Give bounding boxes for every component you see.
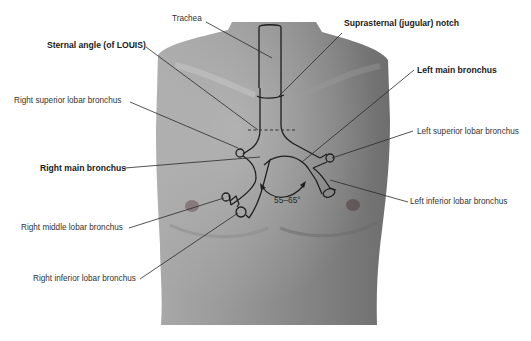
label-right-main-bronchus: Right main bronchus bbox=[40, 163, 126, 173]
label-left-main-bronchus: Left main bronchus bbox=[417, 65, 497, 75]
label-sternal-angle: Sternal angle (of LOUIS) bbox=[47, 40, 146, 50]
label-carina-angle: 55–65° bbox=[274, 195, 301, 205]
label-left-superior-lobar-bronchus: Left superior lobar bronchus bbox=[417, 127, 519, 137]
label-trachea: Trachea bbox=[172, 14, 202, 24]
label-right-middle-lobar-bronchus: Right middle lobar bronchus bbox=[21, 223, 123, 233]
label-suprasternal-notch: Suprasternal (jugular) notch bbox=[344, 18, 459, 28]
label-right-superior-lobar-bronchus: Right superior lobar bronchus bbox=[14, 96, 121, 106]
label-left-inferior-lobar-bronchus: Left inferior lobar bronchus bbox=[410, 197, 507, 207]
label-right-inferior-lobar-bronchus: Right inferior lobar bronchus bbox=[33, 274, 136, 284]
left-nipple bbox=[346, 199, 360, 211]
anatomy-diagram: Trachea Suprasternal (jugular) notch Ste… bbox=[0, 0, 531, 341]
right-nipple bbox=[185, 200, 199, 212]
